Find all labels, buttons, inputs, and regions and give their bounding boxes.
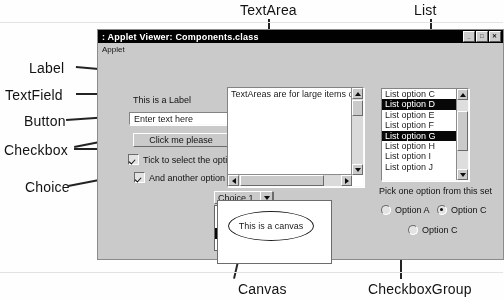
scroll-down-icon[interactable]: [457, 169, 468, 180]
scrollbar-thumb[interactable]: [457, 111, 468, 151]
annotation-canvas: Canvas: [238, 281, 287, 297]
textfield-value: Enter text here: [134, 114, 193, 124]
close-button[interactable]: ✕: [489, 31, 501, 42]
scrollbar-thumb[interactable]: [352, 100, 363, 116]
radio-label: Option C: [451, 205, 487, 215]
textarea-value: TextAreas are for large items of: [231, 89, 351, 99]
annotation-list: List: [414, 2, 437, 18]
scroll-down-icon[interactable]: [352, 164, 363, 175]
awt-canvas[interactable]: This is a canvas: [217, 200, 332, 264]
applet-content-area: This is a Label Enter text here Click me…: [98, 55, 503, 259]
window-title: : Applet Viewer: Components.class: [102, 32, 462, 42]
menu-item-applet[interactable]: Applet: [102, 45, 125, 54]
maximize-button[interactable]: □: [476, 31, 488, 42]
annotation-checkbox: Checkbox: [4, 142, 68, 158]
awt-label: This is a Label: [133, 95, 191, 105]
annotation-textfield: TextField: [5, 87, 63, 103]
scroll-up-icon[interactable]: [352, 88, 363, 99]
textarea-vertical-scrollbar[interactable]: [351, 88, 363, 175]
applet-viewer-window: : Applet Viewer: Components.class _ □ ✕ …: [97, 29, 504, 260]
scrollbar-thumb[interactable]: [240, 175, 324, 186]
annotation-label: Label: [29, 60, 64, 76]
textfield-input[interactable]: Enter text here: [129, 112, 233, 125]
scroll-right-icon[interactable]: [341, 175, 352, 186]
scan-rule-bottom: [0, 272, 503, 273]
textarea-horizontal-scrollbar[interactable]: [228, 174, 352, 186]
radio-icon-selected[interactable]: [437, 205, 447, 215]
button-label: Click me please: [149, 135, 213, 145]
checkbox-icon[interactable]: [128, 154, 139, 165]
annotation-checkboxgroup: CheckboxGroup: [368, 281, 472, 297]
checkbox-label: Tick to select the option: [143, 155, 237, 165]
radio-label: Option C: [422, 225, 458, 235]
radio-icon[interactable]: [381, 205, 391, 215]
checkbox-icon[interactable]: [134, 172, 145, 183]
minimize-button[interactable]: _: [463, 31, 475, 42]
checkbox-another-option[interactable]: And another option: [134, 172, 225, 183]
scroll-up-icon[interactable]: [457, 89, 468, 100]
annotation-textarea: TextArea: [240, 2, 297, 18]
radio-option-c[interactable]: Option C: [408, 225, 458, 235]
checkbox-label: And another option: [149, 173, 225, 183]
canvas-ellipse-shape: This is a canvas: [228, 211, 314, 241]
click-me-button[interactable]: Click me please: [133, 133, 229, 147]
scan-rule-top: [0, 22, 503, 23]
scroll-left-icon[interactable]: [228, 175, 239, 186]
textarea-input[interactable]: TextAreas are for large items of: [227, 87, 364, 187]
annotation-button: Button: [24, 113, 66, 129]
list-box[interactable]: List option C List option D List option …: [381, 88, 469, 181]
radio-label: Option A: [395, 205, 430, 215]
checkbox-tick-to-select[interactable]: Tick to select the option: [128, 154, 237, 165]
list-hint-text: Pick one option from this set: [379, 186, 492, 196]
canvas-text: This is a canvas: [239, 221, 304, 231]
radio-option-c-selected[interactable]: Option C: [437, 205, 487, 215]
radio-icon[interactable]: [408, 225, 418, 235]
title-bar: : Applet Viewer: Components.class _ □ ✕: [98, 30, 503, 43]
annotation-choice: Choice: [25, 179, 70, 195]
radio-option-a[interactable]: Option A: [381, 205, 430, 215]
list-vertical-scrollbar[interactable]: [456, 89, 468, 180]
